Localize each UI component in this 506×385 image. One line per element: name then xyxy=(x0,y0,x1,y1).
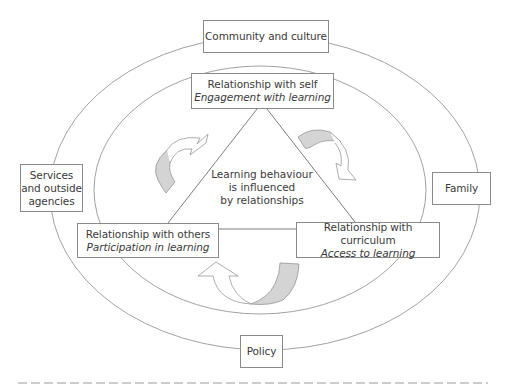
relationship-with-curriculum-box: Relationship with curriculum Access to l… xyxy=(296,222,440,258)
bottom-cycle-arrow-icon xyxy=(198,262,299,305)
policy-box: Policy xyxy=(240,335,283,368)
services-label-line-2: and outside xyxy=(21,182,82,195)
others-title: Relationship with others xyxy=(86,228,210,241)
self-subtitle: Engagement with learning xyxy=(194,91,331,104)
center-line-2: is influenced xyxy=(200,181,324,194)
family-label: Family xyxy=(445,182,478,195)
community-label: Community and culture xyxy=(205,30,327,43)
services-label-line-1: Services xyxy=(30,169,73,182)
relationship-with-self-box: Relationship with self Engagement with l… xyxy=(191,73,334,109)
center-line-1: Learning behaviour xyxy=(200,168,324,181)
figure-caption-clipped xyxy=(18,380,488,385)
services-label-line-3: agencies xyxy=(28,195,74,208)
policy-label: Policy xyxy=(247,345,277,358)
center-line-3: by relationships xyxy=(200,194,324,207)
community-and-culture-box: Community and culture xyxy=(203,20,329,53)
self-title: Relationship with self xyxy=(208,78,318,91)
others-subtitle: Participation in learning xyxy=(87,241,210,254)
services-box: Services and outside agencies xyxy=(20,164,83,212)
relationship-with-others-box: Relationship with others Participation i… xyxy=(77,223,219,258)
center-statement: Learning behaviour is influenced by rela… xyxy=(200,168,324,207)
curriculum-subtitle: Access to learning xyxy=(321,247,416,260)
family-box: Family xyxy=(432,172,491,205)
curriculum-title: Relationship with curriculum xyxy=(297,221,439,247)
